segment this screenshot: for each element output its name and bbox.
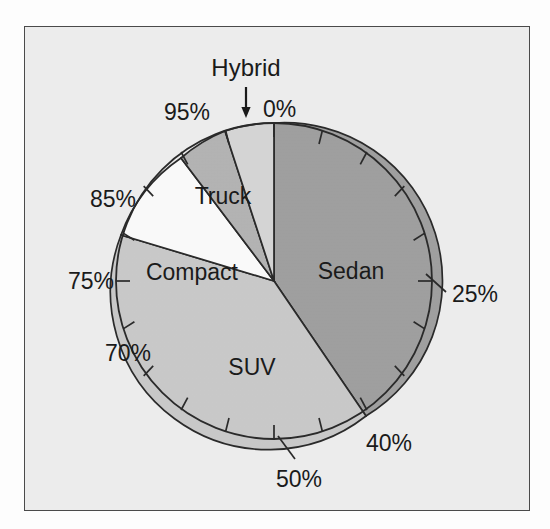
tick-label-95: 95% [164,99,210,125]
slice-label-sedan: Sedan [318,258,385,284]
slice-label-suv: SUV [228,354,276,380]
slice-label-hybrid: Hybrid [211,54,280,81]
chart-frame: Sedan SUV Compact Truck Hybrid 0% 25% 40… [24,26,530,511]
slice-label-compact: Compact [146,259,239,285]
hybrid-arrow-icon [241,87,250,118]
chart-page: Sedan SUV Compact Truck Hybrid 0% 25% 40… [0,0,550,529]
slice-label-truck: Truck [195,183,252,209]
pie-chart: Sedan SUV Compact Truck Hybrid 0% 25% 40… [25,27,528,509]
tick-label-75: 75% [68,268,114,294]
tick-label-70: 70% [105,340,151,366]
tick-label-25: 25% [452,281,498,307]
tick-label-85: 85% [90,186,136,212]
tick-label-0: 0% [263,96,296,122]
tick-label-40: 40% [366,430,412,456]
tick-label-50: 50% [276,466,322,492]
